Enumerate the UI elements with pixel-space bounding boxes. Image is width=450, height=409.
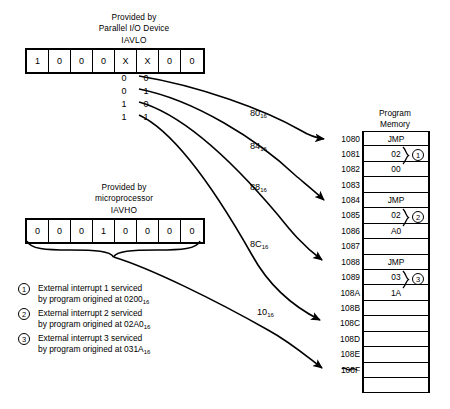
truth-bit-high: 0 <box>113 73 135 83</box>
truth-row: 1 0 <box>113 97 157 110</box>
legend-marker-1: 1 <box>18 283 30 295</box>
iavlo-bit-1: 0 <box>159 50 181 72</box>
truth-bit-low: 1 <box>135 86 157 96</box>
truth-row: 0 1 <box>113 84 157 97</box>
memory-address: 1087 <box>330 239 364 253</box>
memory-address: 108C <box>330 316 364 330</box>
memory-address: 108A <box>330 285 364 299</box>
truth-row: 1 1 <box>113 110 157 123</box>
memory-value: JMP <box>388 195 405 205</box>
truth-bit-high: 1 <box>113 112 135 122</box>
memory-row: 1084 JMP <box>364 193 428 208</box>
truth-bit-low: 1 <box>135 112 157 122</box>
memory-value: 00 <box>391 164 400 174</box>
memory-address: 108E <box>330 347 364 361</box>
memory-address: 1086 <box>330 224 364 238</box>
memory-row: 108B <box>364 301 428 316</box>
memory-row: 108A 1A <box>364 285 428 300</box>
vector-label-10: 1016 <box>257 307 274 317</box>
iavho-bit-3: 0 <box>115 220 137 242</box>
legend-marker-3: 3 <box>18 333 30 345</box>
memory-group-marker-2: 2 <box>412 211 424 223</box>
truth-bit-high: 1 <box>113 99 135 109</box>
memory-value: JMP <box>388 134 405 144</box>
memory-address: 1088 <box>330 255 364 269</box>
iavho-register-name: IAVHO <box>51 205 197 215</box>
truth-row: 0 0 <box>113 71 157 84</box>
memory-row: 1083 <box>364 177 428 192</box>
iavho-bit-2: 0 <box>137 220 159 242</box>
iavlo-bit-0: 0 <box>181 50 203 72</box>
memory-address: 1080 <box>330 132 364 145</box>
iavho-bit-7: 0 <box>27 220 49 242</box>
memory-value: A0 <box>391 226 401 236</box>
iavlo-bit-2: X <box>137 50 159 72</box>
program-memory-title-line2: Memory <box>357 119 433 130</box>
program-memory-table: 1080 JMP 1081 02 1082 00 1083 1084 JMP 1… <box>362 131 430 393</box>
memory-address <box>330 378 364 392</box>
legend-entry-1-line1: External interrupt 1 serviced <box>38 283 142 294</box>
iavlo-bit-4: 0 <box>93 50 115 72</box>
memory-address: 108B <box>330 301 364 315</box>
vector-curve-80 <box>139 76 324 139</box>
memory-row: 1086 A0 <box>364 224 428 239</box>
memory-address: 1083 <box>330 177 364 191</box>
memory-value: 1A <box>391 288 401 298</box>
memory-value: 03 <box>391 272 400 282</box>
iavho-caption-line1: Provided by <box>51 182 197 193</box>
iavlo-bit-3: X <box>115 50 137 72</box>
memory-address: 1089 <box>330 270 364 284</box>
iavlo-bit-7: 1 <box>27 50 49 72</box>
iavho-register: 0 0 0 1 0 0 0 0 <box>25 218 205 244</box>
memory-value: 02 <box>391 210 400 220</box>
memory-address: 1084 <box>330 193 364 207</box>
memory-row: 1080 JMP <box>364 131 428 146</box>
iavho-bit-4: 1 <box>93 220 115 242</box>
memory-group-marker-1: 1 <box>412 149 424 161</box>
memory-group-marker-3: 3 <box>412 273 424 285</box>
legend-entry-2-line2: by program origined at 02A016 <box>38 319 150 331</box>
iavho-bit-6: 0 <box>49 220 71 242</box>
memory-value: JMP <box>388 257 405 267</box>
iavho-caption-line2: microprocessor <box>51 193 197 204</box>
memory-row: 108F <box>364 363 428 378</box>
interrupt-vector-diagram: Provided by Parallel I/O Device IAVLO 1 … <box>0 0 450 409</box>
iavlo-register-name: IAVLO <box>61 35 207 45</box>
iavho-bit-0: 0 <box>181 220 203 242</box>
legend-entry-3-line1: External interrupt 3 serviced <box>38 333 142 344</box>
iavlo-bit-6: 0 <box>49 50 71 72</box>
iavlo-bit-5: 0 <box>71 50 93 72</box>
iavlo-truth-table: 0 0 0 1 1 0 1 1 <box>113 71 157 123</box>
memory-address: 1081 <box>330 146 364 160</box>
iavlo-caption-line1: Provided by <box>61 12 207 23</box>
memory-row: 108C <box>364 316 428 331</box>
memory-address: 1082 <box>330 162 364 176</box>
iavho-bit-1: 0 <box>159 220 181 242</box>
vector-label-88: 8816 <box>250 182 267 192</box>
truth-bit-high: 0 <box>113 86 135 96</box>
memory-row: 108D <box>364 332 428 347</box>
vector-label-84: 8416 <box>250 141 267 151</box>
memory-row <box>364 378 428 393</box>
memory-row: 1082 00 <box>364 162 428 177</box>
iavho-bit-5: 0 <box>71 220 93 242</box>
memory-row: 108E <box>364 347 428 362</box>
program-memory-title-line1: Program <box>357 108 433 119</box>
truth-bit-low: 0 <box>135 73 157 83</box>
legend-entry-3-line2: by program origined at 031A16 <box>38 344 150 356</box>
memory-row: 1087 <box>364 239 428 254</box>
memory-row: 1088 JMP <box>364 255 428 270</box>
memory-address: 108D <box>330 332 364 346</box>
legend-marker-2: 2 <box>18 308 30 320</box>
memory-address: 108F <box>330 363 364 377</box>
iavlo-caption-line2: Parallel I/O Device <box>61 23 207 34</box>
legend-entry-1-line2: by program origined at 020016 <box>38 294 149 306</box>
memory-value: 02 <box>391 149 400 159</box>
truth-bit-low: 0 <box>135 99 157 109</box>
vector-label-80: 8016 <box>250 108 267 118</box>
memory-address: 1085 <box>330 208 364 222</box>
legend-entry-2-line1: External interrupt 2 serviced <box>38 308 142 319</box>
vector-label-8C: 8C16 <box>250 239 268 249</box>
